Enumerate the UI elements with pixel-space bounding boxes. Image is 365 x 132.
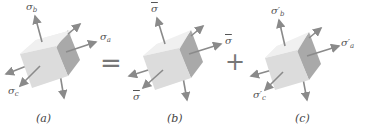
label-sigma-bar-left: σ (133, 92, 140, 102)
panel-c: σ′b σ′a σ′c (c) (245, 0, 365, 132)
caption-c: (c) (295, 112, 310, 125)
label-sigma-prime-c: σ′c (253, 90, 266, 102)
label-sigma-c: σc (8, 86, 19, 98)
label-sigma-a: σa (100, 32, 111, 44)
label-sigma-bar-right: σ (225, 36, 232, 46)
label-sigma-prime-a: σ′a (341, 38, 354, 50)
label-sigma-b: σb (26, 2, 37, 14)
caption-a: (a) (36, 112, 51, 125)
panel-b: σ σ σ (b) (121, 0, 241, 132)
plus-sign: + (225, 50, 245, 74)
equals-sign: = (100, 50, 122, 76)
caption-b: (b) (167, 112, 183, 125)
label-sigma-prime-b: σ′b (271, 6, 285, 18)
label-sigma-bar-top: σ (151, 4, 158, 14)
